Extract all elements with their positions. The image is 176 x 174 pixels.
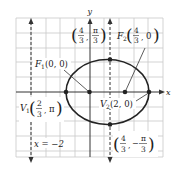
svg-text:−: −: [132, 139, 139, 148]
x-axis-arrow-icon: [159, 90, 165, 95]
svg-text:3: 3: [93, 36, 98, 45]
svg-text:,: ,: [44, 106, 47, 115]
minor-axis-up-arrow-icon: [108, 18, 113, 24]
svg-text:x = −2: x = −2: [34, 139, 64, 149]
svg-text:3: 3: [37, 110, 42, 119]
leader-lines: [64, 48, 147, 101]
svg-text:(0, 0): (0, 0): [45, 59, 68, 69]
svg-text:(: (: [126, 25, 133, 45]
svg-text:2: 2: [37, 99, 42, 108]
minor-axis-line: [108, 18, 113, 163]
polar-ellipse-diagram: x y ( 4 3 , π 3 ) F: [0, 0, 176, 174]
y-axis-label: y: [87, 7, 93, 16]
svg-text:): ): [56, 98, 63, 118]
svg-text:,: ,: [86, 33, 89, 42]
svg-text:,: ,: [141, 33, 144, 42]
vertex1-label: V 1 ( 2 3 , π ): [19, 97, 64, 122]
top-point-label: ( 4 3 , π 3 ): [71, 25, 107, 45]
svg-text:(: (: [113, 134, 120, 154]
y-axis-arrow-icon: [88, 18, 93, 24]
svg-text:): ): [100, 25, 107, 45]
bottom-point-label: ( 4 3 , − π 3 ): [113, 131, 158, 157]
focus2-label: F 2 ( 4 3 , 0 ): [116, 25, 160, 45]
svg-text:3: 3: [121, 145, 126, 154]
svg-text:4: 4: [134, 26, 139, 35]
directrix-label: x = −2: [33, 138, 64, 149]
svg-text:π: π: [141, 134, 146, 143]
focus1-label: F 1 (0, 0): [33, 58, 71, 70]
svg-text:π: π: [49, 104, 55, 114]
svg-text:3: 3: [79, 36, 84, 45]
x-axis-label: x: [166, 88, 171, 97]
svg-text:(: (: [29, 98, 36, 118]
svg-text:(: (: [71, 25, 78, 45]
svg-text:4: 4: [121, 134, 126, 143]
vertex1-point: [64, 90, 69, 95]
svg-text:3: 3: [141, 145, 146, 154]
svg-text:3: 3: [134, 36, 139, 45]
svg-text:4: 4: [79, 26, 84, 35]
vertex2-point: [147, 90, 152, 95]
top-point: [108, 57, 113, 62]
vertex2-label: V 2 (2, 0): [99, 98, 136, 110]
focus2-point: [123, 90, 128, 95]
svg-text:,: ,: [128, 141, 131, 150]
directrix-down-arrow-icon: [29, 157, 34, 163]
svg-text:): ): [153, 25, 160, 45]
svg-text:0: 0: [146, 31, 151, 41]
bottom-point: [108, 122, 113, 127]
svg-text:(2, 0): (2, 0): [110, 99, 133, 109]
minor-axis-down-arrow-icon: [108, 157, 113, 163]
directrix-up-arrow-icon: [29, 18, 34, 24]
svg-text:): ): [148, 134, 155, 154]
svg-text:π: π: [93, 26, 98, 35]
